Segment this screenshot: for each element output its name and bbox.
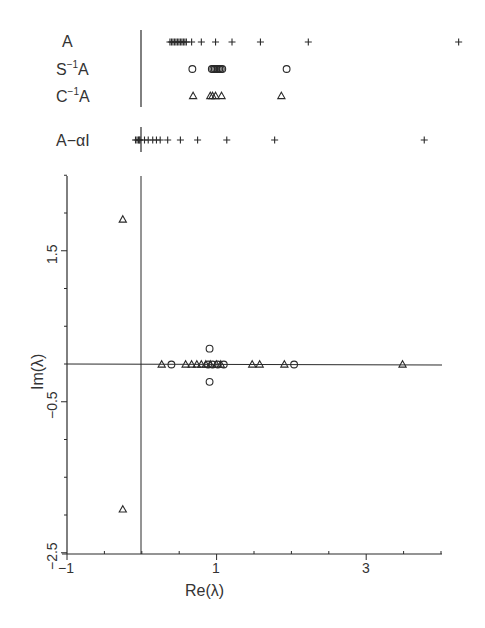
- plus-marker: [257, 39, 264, 46]
- y-tick-label-neg0-5: −0.5: [44, 391, 60, 419]
- triangle-marker: [256, 361, 263, 367]
- y-axis-label: Im(λ): [29, 354, 46, 390]
- triangle-marker: [119, 216, 126, 222]
- y-tick-label-1-5: 1.5: [44, 244, 60, 264]
- strip-label-c-inv-a: C−1A: [56, 86, 90, 105]
- strip-markers: [132, 39, 462, 144]
- y-tick-label-neg2-5: −2.5: [44, 542, 60, 570]
- plus-marker: [271, 137, 278, 144]
- circle-marker: [189, 66, 196, 73]
- strip-label-shifted: A−αI: [56, 132, 90, 149]
- plus-marker: [188, 39, 195, 46]
- x-tick-label-1: 1: [212, 560, 220, 576]
- plus-marker: [305, 39, 312, 46]
- plus-marker: [164, 137, 171, 144]
- triangle-marker: [218, 92, 225, 98]
- plus-marker: [455, 39, 462, 46]
- x-axis-label: Re(λ): [185, 582, 224, 599]
- x-tick-label-neg1: −1: [58, 560, 74, 576]
- strip-label-a: A: [62, 33, 73, 50]
- circle-marker: [206, 345, 213, 352]
- plus-marker: [157, 137, 164, 144]
- triangle-marker: [399, 361, 406, 367]
- triangle-marker: [281, 361, 288, 367]
- plus-marker: [229, 39, 236, 46]
- triangle-marker: [190, 92, 197, 98]
- plus-marker: [421, 137, 428, 144]
- x-tick-label-3: 3: [362, 560, 370, 576]
- plus-marker: [198, 39, 205, 46]
- plus-marker: [177, 137, 184, 144]
- main-plot: −1 1 3 Re(λ) 1.5 −0.5 −2.5 Im(λ): [29, 175, 442, 599]
- plus-marker: [194, 137, 201, 144]
- plus-marker: [223, 137, 230, 144]
- circle-marker: [283, 66, 290, 73]
- plus-marker: [212, 39, 219, 46]
- triangle-marker: [119, 506, 126, 512]
- triangle-marker: [278, 92, 285, 98]
- circle-marker: [206, 378, 213, 385]
- strip-label-s-inv-a: S−1A: [56, 59, 89, 78]
- triangle-marker: [249, 361, 256, 367]
- eigenvalue-figure: A S−1A C−1A A−αI −1 1 3 Re(λ) 1.5 −0.5 −…: [0, 0, 485, 628]
